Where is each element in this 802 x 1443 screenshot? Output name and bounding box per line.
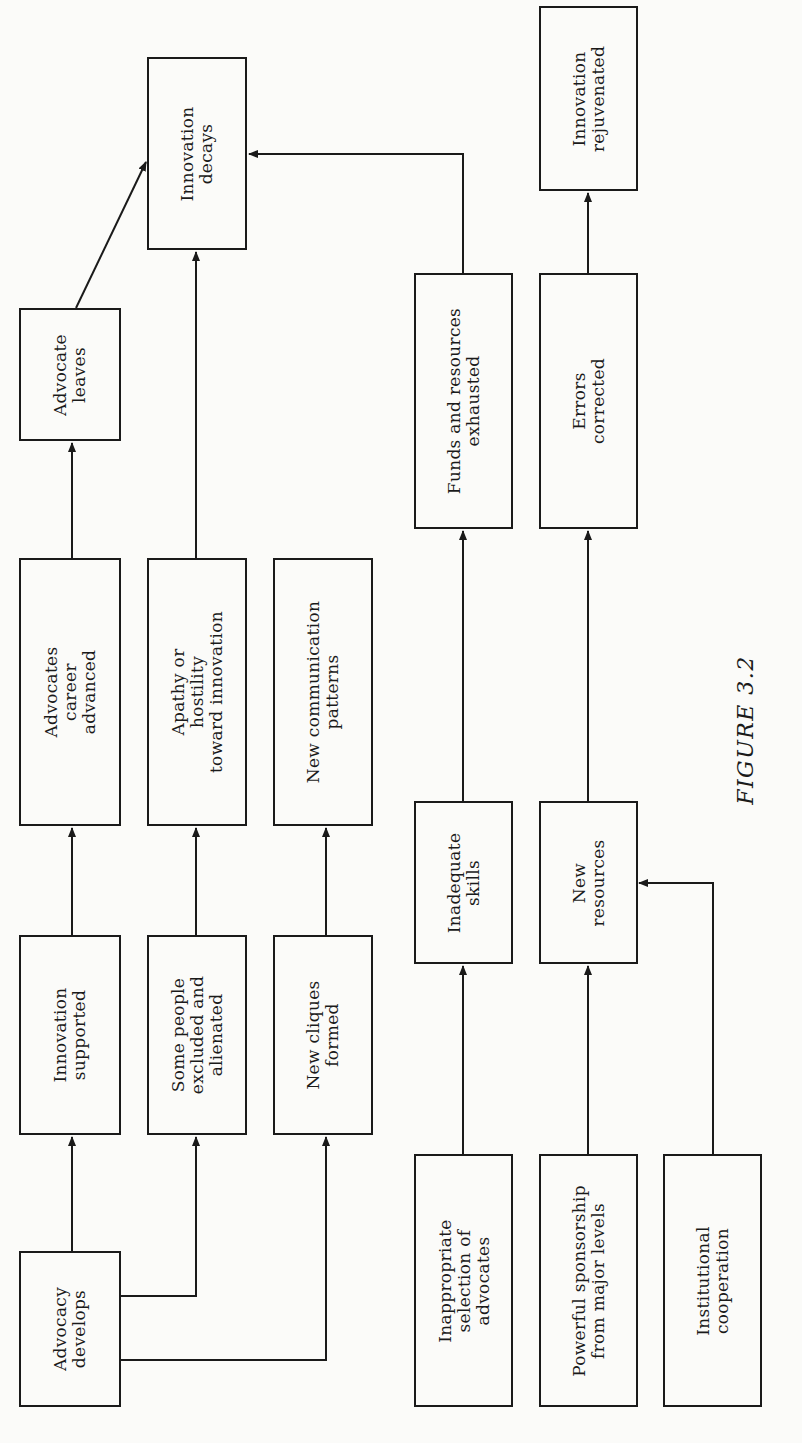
edge-leaves-to-decays: [76, 162, 146, 308]
node-label: Inappropriate selection of advocates: [435, 1219, 492, 1342]
node-label: Advocate leaves: [51, 334, 89, 416]
edge-advocacy-to-excluded: [121, 1137, 196, 1296]
node-errors-corrected: Errors corrected: [539, 273, 638, 529]
node-label: Advocacy develops: [51, 1287, 89, 1371]
node-label: Some people excluded and alienated: [169, 976, 226, 1094]
node-some-people-excluded: Some people excluded and alienated: [147, 935, 247, 1135]
node-label: New cliques formed: [304, 980, 342, 1089]
node-label: Advocates career advanced: [42, 647, 99, 738]
node-label: Funds and resources exhausted: [445, 308, 483, 494]
node-label: New communication patterns: [304, 601, 342, 783]
edge-advocacy-to-cliques: [121, 1137, 326, 1360]
node-inadequate-skills: Inadequate skills: [414, 801, 513, 964]
node-new-communication-patterns: New communication patterns: [273, 558, 373, 826]
edge-funds-to-decays: [249, 154, 463, 273]
node-innovation-supported: Innovation supported: [19, 935, 121, 1135]
node-advocacy-develops: Advocacy develops: [19, 1251, 121, 1407]
node-label: Innovation rejuvenated: [570, 45, 608, 151]
node-label: Institutional cooperation: [694, 1226, 732, 1335]
node-inappropriate-selection: Inappropriate selection of advocates: [414, 1154, 513, 1407]
edge-cooperation-to-resources: [639, 883, 713, 1154]
node-institutional-cooperation: Institutional cooperation: [663, 1154, 762, 1407]
node-label: Innovation supported: [51, 987, 89, 1082]
node-label: Errors corrected: [570, 358, 608, 444]
node-advocates-career-advanced: Advocates career advanced: [19, 558, 121, 826]
node-innovation-rejuvenated: Innovation rejuvenated: [539, 6, 638, 191]
figure-caption: FIGURE 3.2: [733, 655, 758, 805]
node-label: Apathy or hostility toward innovation: [169, 611, 226, 773]
node-innovation-decays: Innovation decays: [147, 57, 247, 250]
node-label: Powerful sponsorship from major levels: [570, 1185, 608, 1377]
node-new-cliques-formed: New cliques formed: [273, 935, 373, 1135]
node-label: New resources: [570, 839, 608, 926]
node-funds-exhausted: Funds and resources exhausted: [414, 273, 513, 529]
node-powerful-sponsorship: Powerful sponsorship from major levels: [539, 1154, 638, 1407]
node-label: Innovation decays: [178, 106, 216, 201]
node-label: Inadequate skills: [445, 832, 483, 933]
node-advocate-leaves: Advocate leaves: [19, 308, 121, 441]
node-new-resources: New resources: [539, 801, 638, 964]
node-apathy-hostility: Apathy or hostility toward innovation: [147, 558, 247, 826]
